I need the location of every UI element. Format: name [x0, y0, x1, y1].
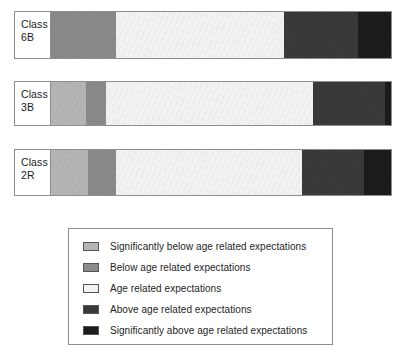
legend-swatch-significantly-above	[83, 326, 99, 335]
bar-label-class-6b: Class 6B	[15, 12, 51, 58]
legend-swatch-below	[83, 263, 99, 272]
bar-segment-age-related	[106, 82, 313, 125]
legend-item-significantly-above: Significantly above age related expectat…	[69, 320, 332, 341]
bar-segment-below	[88, 150, 116, 195]
legend-label-age-related: Age related expectations	[110, 283, 221, 294]
legend-label-significantly-above: Significantly above age related expectat…	[110, 325, 307, 336]
legend-swatch-age-related	[83, 284, 99, 293]
bar-segment-sig-above	[358, 12, 392, 58]
bar-segment-age-related	[116, 150, 302, 195]
legend-label-significantly-below: Significantly below age related expectat…	[110, 241, 306, 252]
bar-segment-age-related	[116, 12, 284, 58]
bar-segment-above	[302, 150, 364, 195]
bar-segment-below	[51, 12, 116, 58]
legend-item-age-related: Age related expectations	[69, 278, 332, 299]
bar-segment-below	[86, 82, 106, 125]
bar-row-class-2r: Class 2R	[14, 149, 392, 196]
legend-swatch-significantly-below	[83, 242, 99, 251]
bar-segment-above	[284, 12, 358, 58]
bar-label-class-3b: Class 3B	[15, 82, 51, 125]
stacked-bar-chart: Class 6B Class 3B Class 2R Significantly…	[0, 0, 402, 362]
chart-legend: Significantly below age related expectat…	[68, 228, 333, 345]
bar-segment-sig-below	[51, 82, 86, 125]
bar-segment-sig-above	[364, 150, 392, 195]
bar-row-class-3b: Class 3B	[14, 81, 392, 126]
legend-item-below: Below age related expectations	[69, 257, 332, 278]
legend-label-below: Below age related expectations	[110, 262, 250, 273]
legend-item-significantly-below: Significantly below age related expectat…	[69, 236, 332, 257]
bar-segment-above	[313, 82, 385, 125]
bar-segment-sig-below	[51, 150, 88, 195]
legend-label-above: Above age related expectations	[110, 304, 252, 315]
bar-label-class-2r: Class 2R	[15, 150, 51, 195]
bar-row-class-6b: Class 6B	[14, 11, 392, 59]
legend-item-above: Above age related expectations	[69, 299, 332, 320]
legend-swatch-above	[83, 305, 99, 314]
bar-segment-sig-above	[385, 82, 392, 125]
